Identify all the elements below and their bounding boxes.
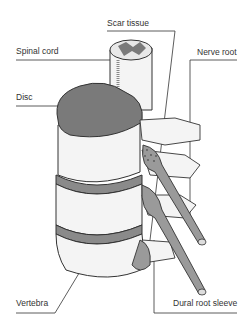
label-spinal-cord: Spinal cord [16,46,59,56]
vertebral-column [56,83,145,277]
label-vertebra: Vertebra [16,298,48,308]
label-nerve-root: Nerve root [197,47,237,57]
label-disc: Disc [16,92,33,102]
label-dural-root-sleeve: Dural root sleeve [173,298,237,308]
label-scar-tissue: Scar tissue [107,18,149,28]
